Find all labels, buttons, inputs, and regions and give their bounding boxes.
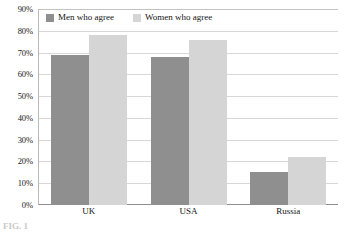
bar[interactable] xyxy=(151,57,189,205)
legend-item[interactable]: Women who agree xyxy=(133,13,212,22)
y-axis: 90%80%70%60%50%40%30%20%10%0% xyxy=(0,0,36,205)
chart-legend: Men who agreeWomen who agree xyxy=(46,13,212,22)
bars-layer xyxy=(39,9,338,205)
y-axis-tick-label: 60% xyxy=(18,70,33,79)
bar[interactable] xyxy=(89,35,127,205)
y-axis-tick-label: 70% xyxy=(18,48,33,57)
y-axis-tick-label: 20% xyxy=(18,157,33,166)
y-axis-tick-label: 50% xyxy=(18,92,33,101)
legend-item-label: Men who agree xyxy=(58,13,114,22)
legend-item-label: Women who agree xyxy=(145,13,212,22)
x-axis: UKUSARussia xyxy=(39,207,338,216)
y-axis-tick-label: 80% xyxy=(18,27,33,36)
y-axis-tick-label: 90% xyxy=(18,5,33,14)
bar-chart-figure: 90%80%70%60%50%40%30%20%10%0% Men who ag… xyxy=(0,0,346,232)
bar[interactable] xyxy=(288,157,326,205)
y-axis-tick-label: 40% xyxy=(18,114,33,123)
y-axis-tick-label: 10% xyxy=(18,179,33,188)
y-axis-tick-label: 30% xyxy=(18,135,33,144)
bar[interactable] xyxy=(250,172,288,205)
bar[interactable] xyxy=(51,55,89,205)
legend-swatch-icon xyxy=(133,14,141,22)
x-axis-tick-label: USA xyxy=(139,207,239,216)
figure-caption: FIG. 1 xyxy=(3,222,28,229)
bar-group xyxy=(238,9,338,205)
y-axis-tick-label: 0% xyxy=(22,201,33,210)
legend-swatch-icon xyxy=(46,14,54,22)
legend-item[interactable]: Men who agree xyxy=(46,13,114,22)
x-axis-tick-label: UK xyxy=(39,207,139,216)
x-axis-tick-label: Russia xyxy=(238,207,338,216)
bar-group xyxy=(139,9,239,205)
bar-group xyxy=(39,9,139,205)
bar[interactable] xyxy=(189,40,227,206)
